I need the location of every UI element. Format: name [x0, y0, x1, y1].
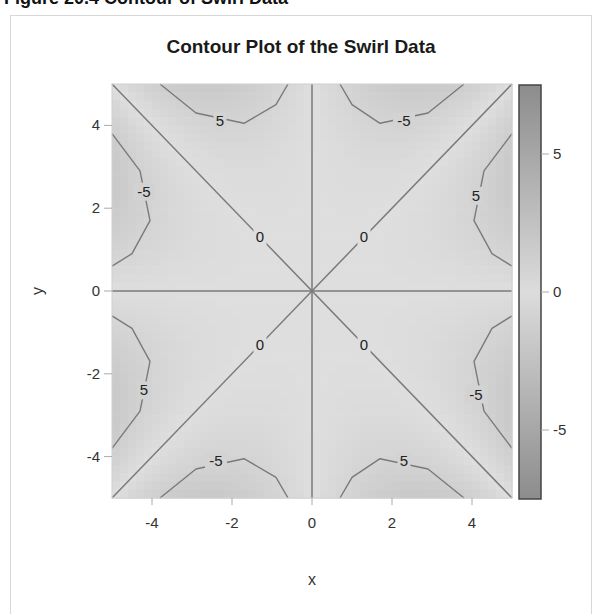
y-axis: -4-2024 [87, 116, 112, 464]
y-tick-label: 0 [92, 282, 100, 299]
x-axis: -4-2024 [145, 498, 476, 531]
contour-label: 0 [256, 336, 264, 353]
contour-label: 0 [256, 228, 264, 245]
x-axis-label: x [308, 571, 316, 588]
contour-label: 5 [140, 381, 148, 398]
contour-label: 5 [400, 452, 408, 469]
contour-label: 0 [360, 336, 368, 353]
contour-label: -5 [397, 112, 410, 129]
x-tick-label: 4 [468, 514, 476, 531]
x-tick-label: -2 [225, 514, 238, 531]
colorbar-gradient [519, 85, 541, 499]
colorbar-tick-label: 0 [553, 283, 561, 300]
y-tick-label: 2 [92, 199, 100, 216]
colorbar-tick-label: -5 [553, 421, 566, 438]
contour-label: -5 [469, 386, 482, 403]
y-tick-label: -4 [87, 448, 100, 465]
contour-label: 5 [216, 112, 224, 129]
contour-label: 5 [472, 187, 480, 204]
contour-label: -5 [137, 183, 150, 200]
y-axis-label: y [29, 287, 46, 295]
colorbar: 50-5 [519, 85, 566, 499]
x-tick-label: 2 [388, 514, 396, 531]
y-tick-label: 4 [92, 116, 100, 133]
contour-lines [112, 84, 512, 498]
x-tick-label: -4 [145, 514, 158, 531]
contour-label: -5 [209, 452, 222, 469]
contour-label: 0 [360, 228, 368, 245]
colorbar-tick-label: 5 [553, 145, 561, 162]
y-tick-label: -2 [87, 365, 100, 382]
contour-chart: 5-5-5500005-5-55 -4-2024 -4-2024 50-5 x … [0, 0, 602, 614]
x-tick-label: 0 [308, 514, 316, 531]
